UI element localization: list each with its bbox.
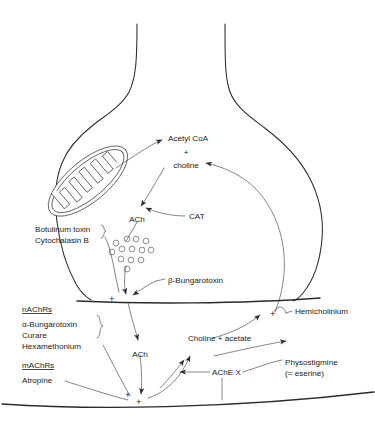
label-botulinum-toxin: Botulinum toxin — [35, 225, 90, 234]
label-physostigmine: Physostigmine — [285, 358, 338, 367]
label-machrs: mAChRs — [22, 361, 54, 370]
label-alpha-bungarotoxin: α-Bungarotoxin — [22, 320, 77, 329]
label-plus-sign: + — [184, 148, 189, 157]
arrow-cat-to-ach — [146, 208, 185, 216]
label-ach-cleft: ACh — [132, 350, 148, 359]
label-choline: choline — [173, 161, 199, 170]
label-hexamethonium: Hexamethonium — [22, 342, 81, 351]
label-eserine: (= eserine) — [285, 369, 324, 378]
plus-release-site: + — [109, 293, 115, 304]
label-ach-terminal: ACh — [129, 215, 145, 224]
label-nachrs: nAChRs — [22, 305, 52, 314]
synaptic-vesicle-cluster — [109, 236, 154, 272]
plus-postsynaptic-b: + — [136, 396, 142, 407]
label-atropine: Atropine — [22, 376, 53, 385]
leader-beta-bungarotoxin — [156, 279, 165, 281]
leader-hemicholinium — [286, 311, 292, 313]
arrow-vesicle-exocytosis — [125, 266, 127, 294]
mitochondrion — [37, 134, 138, 228]
arrow-choline-reuptake — [206, 163, 284, 312]
arrow-ach-into-cleft — [128, 303, 138, 340]
label-cat: CAT — [189, 212, 205, 221]
label-cytochalasin-b: Cytochalasin B — [35, 236, 89, 245]
postsynaptic-membrane — [2, 392, 374, 407]
line-botulinum-to-release-site — [105, 237, 119, 292]
plus-postsynaptic-a: + — [125, 389, 131, 400]
label-curare: Curare — [22, 331, 47, 340]
label-beta-bungarotoxin: β-Bungarotoxin — [168, 276, 223, 285]
brace-botulinum-group — [101, 225, 106, 238]
arrow-ach-to-postsynaptic-receptor — [140, 355, 142, 394]
arrow-beta-bungarotoxin-to-release-site — [133, 281, 156, 295]
diagram-canvas: + + + + Acetyl CoA + choline CAT ACh Bot… — [0, 0, 375, 429]
arrow-ach-to-vesicles — [126, 222, 137, 241]
cholinergic-synapse-figure: + + + + Acetyl CoA + choline CAT ACh Bot… — [0, 0, 375, 429]
label-acetyl-coa: Acetyl CoA — [168, 134, 209, 143]
arrow-ach-hydrolysis — [148, 356, 190, 398]
label-ache-x: AChE X — [212, 368, 241, 377]
label-hemicholinium: Hemicholinium — [295, 307, 348, 316]
arrow-physostigmine-effect — [214, 341, 286, 356]
line-atropine-to-membrane — [65, 381, 128, 400]
brace-nachr-blockers — [97, 315, 103, 338]
plus-uptake-site: + — [270, 308, 276, 319]
label-choline-acetate: Choline + acetate — [188, 334, 252, 343]
arrow-substrates-to-ach — [141, 168, 164, 206]
line-physostigmine-to-ache — [243, 360, 282, 372]
